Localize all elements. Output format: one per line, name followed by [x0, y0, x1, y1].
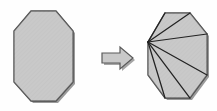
arrow-group: [102, 47, 135, 71]
triangulation-diagram: [0, 0, 217, 111]
right-arrow-icon: [102, 47, 133, 69]
figure-container: [0, 0, 217, 111]
left-polygon-octagon: [14, 11, 73, 101]
right-polygon-group: [140, 0, 217, 111]
left-polygon-group: [0, 0, 100, 111]
